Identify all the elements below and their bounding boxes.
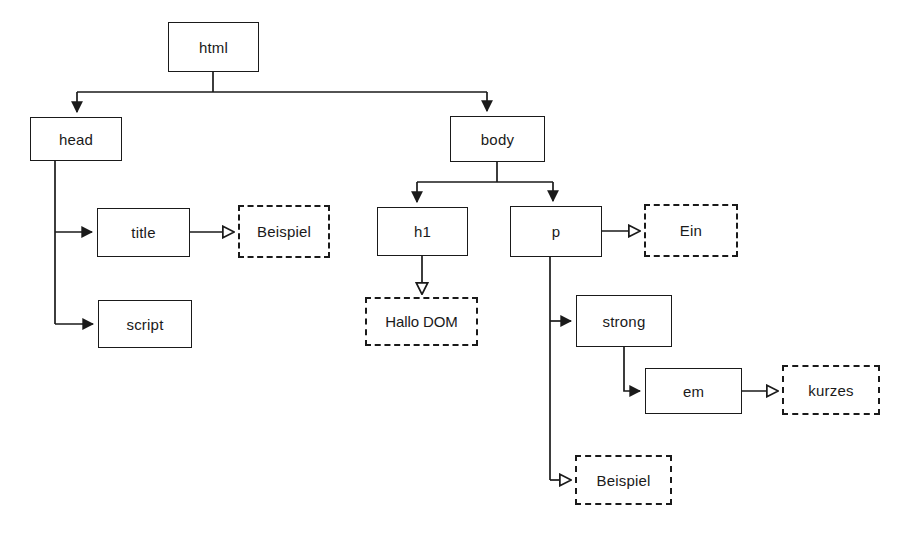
node-title-label: title xyxy=(131,225,155,240)
node-head-label: head xyxy=(59,132,93,147)
text-node-title-beispiel-label: Beispiel xyxy=(257,224,311,239)
node-p-label: p xyxy=(552,224,561,239)
text-node-h1-hallo-dom[interactable]: Hallo DOM xyxy=(365,297,478,346)
text-node-p-beispiel-label: Beispiel xyxy=(596,473,650,488)
node-script-label: script xyxy=(126,317,163,332)
node-strong[interactable]: strong xyxy=(576,295,672,347)
text-node-title-beispiel[interactable]: Beispiel xyxy=(238,205,330,258)
node-body[interactable]: body xyxy=(450,116,545,162)
text-node-h1-hallo-dom-label: Hallo DOM xyxy=(385,314,457,329)
node-title[interactable]: title xyxy=(97,208,190,257)
node-html[interactable]: html xyxy=(168,22,259,72)
text-node-p-ein-label: Ein xyxy=(680,223,702,238)
node-body-label: body xyxy=(481,132,514,147)
node-h1[interactable]: h1 xyxy=(377,207,468,256)
node-h1-label: h1 xyxy=(414,224,431,239)
node-head[interactable]: head xyxy=(30,117,122,161)
node-p[interactable]: p xyxy=(510,206,602,257)
text-node-p-ein[interactable]: Ein xyxy=(644,204,738,257)
node-em[interactable]: em xyxy=(645,368,742,414)
text-node-em-kurzes[interactable]: kurzes xyxy=(782,365,880,415)
diagram-connectors xyxy=(0,0,901,540)
text-node-p-beispiel[interactable]: Beispiel xyxy=(575,455,672,505)
node-script[interactable]: script xyxy=(98,300,192,348)
node-strong-label: strong xyxy=(603,314,646,329)
node-em-label: em xyxy=(683,384,704,399)
text-node-em-kurzes-label: kurzes xyxy=(808,383,853,398)
edge-strong-em xyxy=(624,347,640,391)
node-html-label: html xyxy=(199,40,228,55)
dom-tree-diagram: html head body title script h1 p strong … xyxy=(0,0,901,540)
